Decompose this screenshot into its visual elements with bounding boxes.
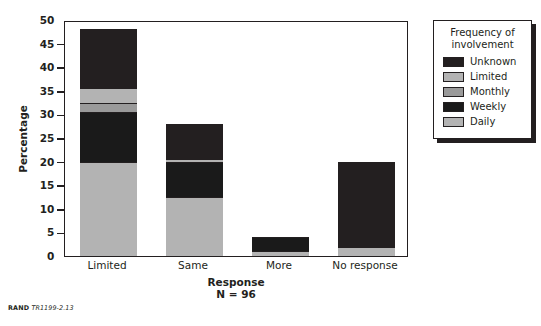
bar-segment-limited[interactable] <box>166 159 223 161</box>
legend-label-daily: Daily <box>470 116 495 128</box>
bar-same[interactable] <box>166 124 223 256</box>
y-axis-tick-mark <box>57 209 64 211</box>
legend-title-line-1: Frequency of <box>434 27 531 39</box>
legend-swatch-weekly <box>443 102 464 112</box>
bar-segment-monthly[interactable] <box>80 103 137 112</box>
legend-item-weekly[interactable]: Weekly <box>443 99 531 114</box>
legend-item-limited[interactable]: Limited <box>443 69 531 84</box>
bar-more[interactable] <box>252 237 309 256</box>
legend: Frequency of involvement UnknownLimitedM… <box>433 20 532 139</box>
legend-title-line-2: involvement <box>434 39 531 51</box>
y-axis-tick-mark <box>57 91 64 93</box>
legend-item-unknown[interactable]: Unknown <box>443 54 531 69</box>
y-axis-tick-mark <box>57 44 64 46</box>
legend-label-limited: Limited <box>470 71 507 83</box>
bar-segment-unknown[interactable] <box>80 29 137 88</box>
x-axis: LimitedSameMoreNo response <box>64 259 408 275</box>
y-axis-tick-mark <box>57 67 64 69</box>
legend-swatch-monthly <box>443 87 464 97</box>
plot-area <box>65 22 407 256</box>
bar-segment-unknown[interactable] <box>166 124 223 159</box>
legend-label-unknown: Unknown <box>470 56 516 68</box>
x-axis-title: Response <box>64 276 408 289</box>
x-axis-label-more: More <box>236 259 322 271</box>
legend-item-daily[interactable]: Daily <box>443 114 531 129</box>
legend-swatch-limited <box>443 72 464 82</box>
footer-brand: RAND <box>8 304 29 312</box>
bar-segment-weekly[interactable] <box>80 112 137 162</box>
x-axis-label-limited: Limited <box>64 259 150 271</box>
plot-frame <box>64 21 408 257</box>
bar-segment-unknown[interactable] <box>338 162 395 247</box>
legend-label-weekly: Weekly <box>470 101 506 113</box>
bar-segment-limited[interactable] <box>80 88 137 102</box>
legend-swatch-unknown <box>443 57 464 67</box>
footer-figure-id: TR1199-2.13 <box>31 304 73 312</box>
legend-item-monthly[interactable]: Monthly <box>443 84 531 99</box>
x-axis-label-same: Same <box>150 259 236 271</box>
y-axis-tick-mark <box>57 233 64 235</box>
y-axis-tick-mark <box>57 115 64 117</box>
bar-limited[interactable] <box>80 29 137 256</box>
footer: RAND TR1199-2.13 <box>8 304 74 312</box>
bar-segment-daily[interactable] <box>252 251 309 256</box>
bar-segment-daily[interactable] <box>80 162 137 256</box>
y-axis-tick-mark <box>57 185 64 187</box>
y-axis-title: Percentage <box>13 21 33 257</box>
bar-segment-weekly[interactable] <box>166 162 223 197</box>
bar-segment-daily[interactable] <box>338 247 395 256</box>
x-axis-label-no-response: No response <box>322 259 408 271</box>
y-axis-tick-mark <box>57 162 64 164</box>
bar-no-response[interactable] <box>338 162 395 256</box>
bar-segment-daily[interactable] <box>166 197 223 256</box>
bar-segment-weekly[interactable] <box>252 237 309 251</box>
x-axis-sample-size: N = 96 <box>64 288 408 301</box>
legend-label-monthly: Monthly <box>470 86 510 98</box>
y-axis-tick-mark <box>57 138 64 140</box>
legend-title: Frequency of involvement <box>434 21 531 54</box>
legend-items: UnknownLimitedMonthlyWeeklyDaily <box>434 54 531 129</box>
legend-swatch-daily <box>443 117 464 127</box>
